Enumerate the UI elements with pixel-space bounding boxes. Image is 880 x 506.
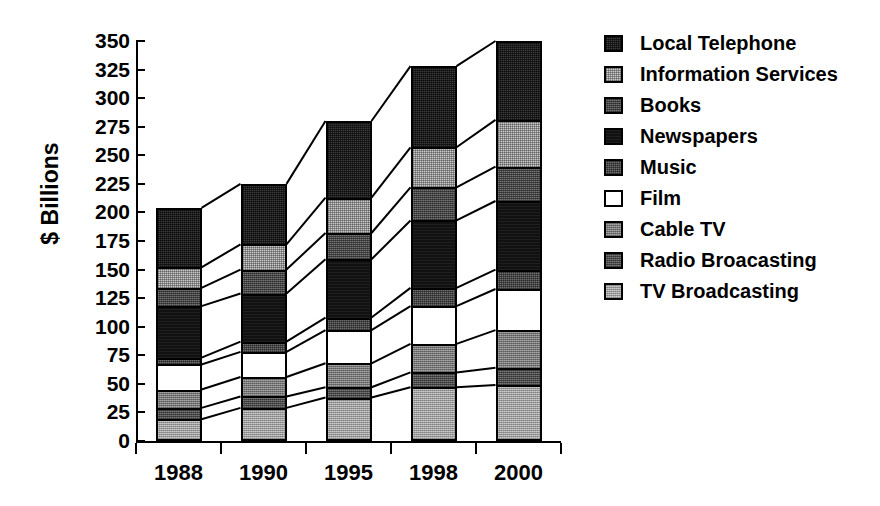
legend-swatch-icon [604, 97, 623, 114]
bar-segment[interactable] [496, 385, 542, 441]
bar-segment[interactable] [326, 233, 372, 259]
y-axis-tick-label: 350 [56, 30, 130, 51]
y-axis-tick [136, 240, 145, 242]
bar-segment[interactable] [496, 201, 542, 270]
bar-segment[interactable] [411, 288, 457, 306]
legend-item[interactable]: Books [604, 90, 876, 121]
bar-2000[interactable] [496, 41, 542, 441]
bar-1998[interactable] [411, 41, 457, 441]
bar-segment[interactable] [156, 267, 202, 288]
legend-item[interactable]: Information Services [604, 59, 876, 90]
bar-segment[interactable] [411, 147, 457, 187]
legend-swatch-icon [604, 221, 623, 238]
bar-segment[interactable] [241, 377, 287, 396]
bar-segment[interactable] [156, 390, 202, 408]
bar-segment[interactable] [241, 184, 287, 245]
bar-segment[interactable] [411, 66, 457, 147]
bar-segment[interactable] [156, 364, 202, 389]
bar-segment[interactable] [156, 408, 202, 419]
legend-item[interactable]: Cable TV [604, 214, 876, 245]
y-axis-tick-label: 300 [56, 87, 130, 108]
legend-item-label: Cable TV [640, 218, 726, 241]
bar-segment[interactable] [326, 363, 372, 387]
x-axis-tick [220, 443, 222, 454]
bar-segment[interactable] [326, 318, 372, 331]
bar-segment[interactable] [156, 419, 202, 441]
bar-segment[interactable] [241, 342, 287, 352]
bar-segment[interactable] [241, 352, 287, 377]
bar-1995[interactable] [326, 41, 372, 441]
legend-item-label: TV Broadcasting [640, 280, 799, 303]
y-axis-tick [136, 354, 145, 356]
legend-item-label: Radio Broacasting [640, 249, 817, 272]
bar-segment[interactable] [326, 398, 372, 441]
legend-swatch-icon [604, 35, 623, 52]
y-axis-tick-label: 275 [56, 116, 130, 137]
legend-swatch-icon [604, 190, 623, 207]
y-axis-tick [136, 126, 145, 128]
legend-swatch-icon [604, 252, 623, 269]
legend-item[interactable]: Radio Broacasting [604, 245, 876, 276]
bar-segment[interactable] [411, 220, 457, 287]
y-axis-tick-label: 75 [56, 344, 130, 365]
bar-segment[interactable] [411, 344, 457, 373]
y-axis-tick [136, 269, 145, 271]
bar-segment[interactable] [496, 368, 542, 385]
bar-segment[interactable] [241, 408, 287, 441]
legend-swatch-icon [604, 128, 623, 145]
bar-segment[interactable] [241, 294, 287, 342]
y-axis-tick-label: 25 [56, 401, 130, 422]
bar-segment[interactable] [496, 41, 542, 120]
bar-segment[interactable] [326, 387, 372, 397]
bar-segment[interactable] [156, 288, 202, 306]
bar-segment[interactable] [156, 306, 202, 357]
legend-swatch-icon [604, 66, 623, 83]
y-axis-tick-label: 50 [56, 373, 130, 394]
legend-item[interactable]: Local Telephone [604, 28, 876, 59]
bar-segment[interactable] [496, 167, 542, 201]
bar-segment[interactable] [411, 187, 457, 220]
bar-segment[interactable] [326, 259, 372, 317]
y-axis-tick-label: 125 [56, 287, 130, 308]
y-axis-tick-label: 225 [56, 173, 130, 194]
legend-item-label: Newspapers [640, 125, 758, 148]
y-axis-tick [136, 183, 145, 185]
y-axis-tick [136, 69, 145, 71]
bar-segment[interactable] [496, 120, 542, 167]
y-axis-tick-label: 200 [56, 201, 130, 222]
y-axis-tick [136, 411, 145, 413]
legend: Local TelephoneInformation ServicesBooks… [604, 28, 876, 307]
bar-segment[interactable] [326, 330, 372, 363]
y-axis-tick-label: 100 [56, 316, 130, 337]
legend-item-label: Music [640, 156, 697, 179]
bar-segment[interactable] [496, 330, 542, 368]
bar-segment[interactable] [326, 121, 372, 198]
bar-segment[interactable] [156, 208, 202, 267]
bar-segment[interactable] [241, 270, 287, 294]
y-axis-tick [136, 211, 145, 213]
x-axis-tick [475, 443, 477, 454]
legend-item[interactable]: Newspapers [604, 121, 876, 152]
legend-item[interactable]: TV Broadcasting [604, 276, 876, 307]
bar-segment[interactable] [326, 198, 372, 233]
bar-segment[interactable] [411, 372, 457, 387]
x-axis-tick [390, 443, 392, 454]
x-axis-tick-label: 2000 [464, 460, 574, 486]
y-axis-tick [136, 326, 145, 328]
bar-segment[interactable] [411, 387, 457, 441]
bar-segment[interactable] [241, 396, 287, 407]
bar-segment[interactable] [496, 270, 542, 289]
y-axis-tick-label: 0 [56, 430, 130, 451]
legend-item[interactable]: Music [604, 152, 876, 183]
bar-segment[interactable] [496, 289, 542, 330]
legend-item[interactable]: Film [604, 183, 876, 214]
legend-item-label: Local Telephone [640, 32, 796, 55]
bar-segment[interactable] [411, 306, 457, 344]
y-axis-tick-label: 175 [56, 230, 130, 251]
y-axis-tick [136, 40, 145, 42]
bar-1988[interactable] [156, 41, 202, 441]
bar-1990[interactable] [241, 41, 287, 441]
bar-segment[interactable] [156, 358, 202, 365]
bar-segment[interactable] [241, 244, 287, 269]
y-axis-tick-label: 325 [56, 59, 130, 80]
